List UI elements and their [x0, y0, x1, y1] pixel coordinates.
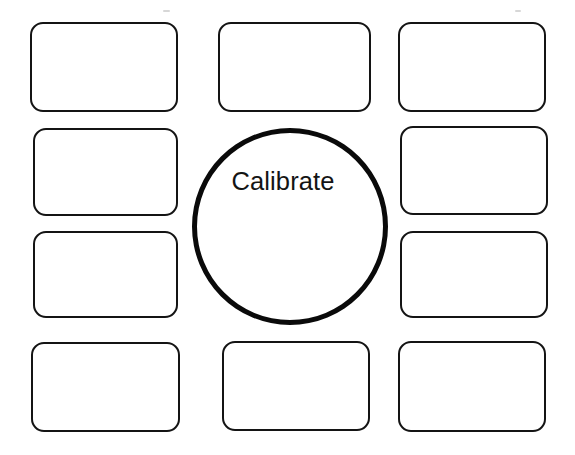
- node-box-top-right[interactable]: [398, 22, 546, 112]
- node-box-bottom-left[interactable]: [31, 342, 180, 432]
- scan-artifact-speck: [163, 10, 170, 12]
- node-box-bottom-right[interactable]: [398, 341, 546, 432]
- node-box-bottom-center[interactable]: [222, 341, 370, 431]
- center-node-label: Calibrate: [232, 167, 335, 196]
- node-box-right-lower[interactable]: [400, 231, 548, 318]
- node-box-left-lower[interactable]: [33, 231, 178, 318]
- node-box-left-upper[interactable]: [33, 128, 178, 216]
- node-box-right-upper[interactable]: [400, 126, 548, 215]
- node-box-top-center[interactable]: [218, 22, 371, 112]
- graphic-organizer-canvas: Calibrate: [0, 0, 575, 455]
- node-box-top-left[interactable]: [30, 22, 178, 112]
- center-ellipse-node[interactable]: Calibrate: [192, 128, 388, 325]
- scan-artifact-speck: [515, 10, 521, 12]
